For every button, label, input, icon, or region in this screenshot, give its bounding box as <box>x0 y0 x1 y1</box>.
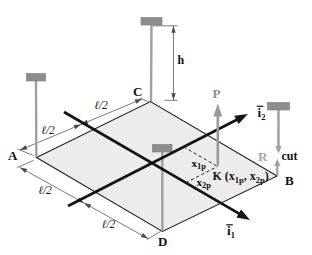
dim-arrowhead <box>171 26 175 33</box>
support-top <box>141 18 162 102</box>
height-label: h <box>178 53 185 67</box>
cut-label: cut <box>282 149 298 163</box>
corner-label-c: C <box>133 84 142 99</box>
support-bar <box>27 74 46 82</box>
reaction-r-label: R <box>258 149 268 164</box>
axis-i2-label: i2 <box>258 105 266 122</box>
plate-support-diagram: ℓ/2 ℓ/2 ℓ/2 ℓ/2 h <box>0 0 312 255</box>
support-left <box>27 74 46 158</box>
dim-arrowhead <box>74 125 81 130</box>
dimension-h: h <box>153 26 185 101</box>
extension-tick-a-lower <box>17 161 34 168</box>
dim-arrowhead <box>84 203 91 208</box>
half-span-label-ad-upper: ℓ/2 <box>38 184 52 196</box>
dim-arrowhead <box>20 168 27 173</box>
diagram-canvas: ℓ/2 ℓ/2 ℓ/2 ℓ/2 h <box>0 0 312 255</box>
half-span-label-ad-lower: ℓ/2 <box>102 218 116 230</box>
dim-arrowhead <box>20 145 27 150</box>
dim-arrowhead <box>171 93 175 100</box>
force-p-arrowhead <box>213 104 222 117</box>
half-span-label-ac-upper: ℓ/2 <box>94 99 108 111</box>
corner-label-a: A <box>8 148 18 163</box>
corner-label-b: B <box>285 173 294 188</box>
support-right-cut <box>268 103 290 154</box>
force-p-label: P <box>213 86 221 101</box>
half-span-label-ac-lower: ℓ/2 <box>41 124 55 136</box>
axis-i1-arrowhead <box>236 209 250 220</box>
support-rod <box>151 25 152 101</box>
support-bar <box>268 103 290 111</box>
corner-label-d: D <box>158 234 167 249</box>
support-bar <box>141 18 162 26</box>
support-bar <box>153 145 173 153</box>
reaction-r-arrowhead <box>274 159 280 166</box>
dim-arrowhead <box>141 233 148 238</box>
dim-arrowhead <box>135 99 142 104</box>
extension-tick-a-upper <box>18 149 34 156</box>
axis-i2-arrowhead <box>234 114 248 124</box>
